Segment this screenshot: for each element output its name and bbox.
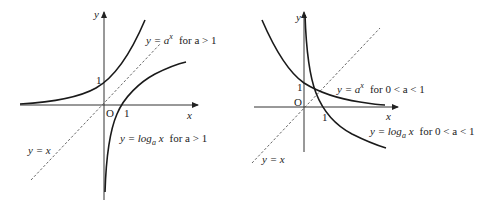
right-identity-line — [252, 28, 380, 163]
right-exp-curve — [262, 20, 385, 105]
right-identity-label: y = x — [261, 153, 285, 165]
right-exp-label: y = axfor 0 < a < 1 — [336, 81, 425, 95]
right-panel: y x O 1 1 y = axfor 0 < a < 1 y = loga x… — [252, 11, 474, 165]
left-panel: y x O 1 1 y = axfor a > 1 y = loga xfor … — [20, 8, 217, 200]
right-x-tick-one: 1 — [322, 111, 328, 123]
right-y-tick-one: 1 — [297, 81, 303, 93]
left-y-axis-label: y — [93, 8, 99, 20]
left-origin-label: O — [106, 107, 114, 119]
left-y-tick-one: 1 — [96, 74, 102, 86]
left-identity-label: y = x — [27, 144, 51, 156]
left-exp-label: y = axfor a > 1 — [145, 32, 217, 46]
right-log-label: y = loga xfor 0 < a < 1 — [369, 125, 474, 140]
left-x-tick-one: 1 — [124, 107, 130, 119]
right-y-axis-label: y — [295, 11, 301, 23]
left-x-axis-label: x — [186, 109, 192, 121]
diagram-canvas: y x O 1 1 y = axfor a > 1 y = loga xfor … — [0, 0, 496, 203]
left-identity-line — [31, 43, 161, 180]
left-log-curve — [105, 62, 186, 192]
right-x-axis-label: x — [385, 110, 391, 122]
left-log-label: y = loga xfor a > 1 — [119, 132, 207, 147]
right-origin-label: O — [294, 96, 302, 108]
left-exp-curve — [20, 20, 145, 104]
